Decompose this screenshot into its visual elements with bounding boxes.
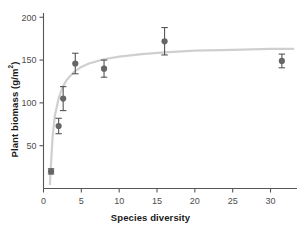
axis-tick-labels: 05101520253050100150200 [21, 13, 275, 206]
fit-curve [50, 49, 293, 184]
x-tick-label: 20 [190, 196, 200, 206]
x-tick-label: 25 [228, 196, 238, 206]
y-axis-label-tail: ) [9, 62, 20, 65]
x-tick-label: 5 [79, 196, 84, 206]
y-axis-label-exponent: 2 [7, 65, 14, 69]
x-tick-label: 0 [41, 196, 46, 206]
data-point-marker [48, 168, 54, 174]
y-tick-label: 200 [21, 13, 36, 23]
data-points [48, 38, 285, 174]
x-tick-label: 30 [266, 196, 276, 206]
y-axis-label-text: Plant biomass (g/m [9, 69, 20, 158]
data-point-marker [60, 96, 66, 102]
y-tick-label: 50 [26, 141, 36, 151]
data-point-marker [56, 123, 62, 129]
y-tick-label: 150 [21, 55, 36, 65]
data-point-marker [279, 58, 285, 64]
x-tick-label: 15 [152, 196, 162, 206]
data-point-marker [161, 38, 167, 44]
biomass-vs-diversity-scatter-plot: 05101520253050100150200 [0, 0, 301, 234]
data-point-marker [72, 60, 78, 66]
axis-ticks [40, 17, 271, 192]
y-axis-label: Plant biomass (g/m2) [9, 50, 20, 170]
chart-figure: 05101520253050100150200 Plant biomass (g… [0, 0, 301, 234]
y-tick-label: 100 [21, 98, 36, 108]
x-axis-label: Species diversity [0, 212, 301, 223]
x-tick-label: 10 [114, 196, 124, 206]
plot-axes [44, 13, 298, 189]
data-point-marker [101, 66, 107, 72]
fit-curve-line [50, 49, 293, 184]
